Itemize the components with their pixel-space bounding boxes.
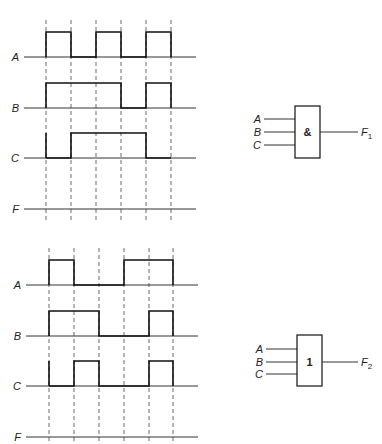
signal-label-f: F bbox=[14, 431, 22, 443]
gate-symbol: 1 bbox=[306, 356, 312, 368]
waveform-a bbox=[49, 260, 173, 285]
and-gate-timing-section: ABCFABC&F1 bbox=[11, 20, 373, 222]
waveform-c bbox=[46, 133, 171, 158]
gate-input-label-b: B bbox=[256, 356, 263, 368]
waveform-c bbox=[49, 361, 173, 386]
waveform-b bbox=[49, 311, 173, 336]
gate-output-label: F1 bbox=[361, 126, 373, 141]
signal-label-b: B bbox=[12, 102, 19, 114]
signal-label-f: F bbox=[12, 203, 20, 215]
signal-label-c: C bbox=[13, 380, 21, 392]
timing-diagram: ABCFABC&F1 ABCFABC1F2 bbox=[0, 0, 382, 444]
gate-input-label-a: A bbox=[255, 343, 263, 355]
gate-input-label-c: C bbox=[255, 368, 263, 380]
waveform-a bbox=[46, 32, 171, 57]
waveform-b bbox=[46, 83, 171, 108]
gate-symbol: & bbox=[304, 126, 312, 138]
signal-label-b: B bbox=[14, 330, 21, 342]
signal-label-a: A bbox=[11, 51, 19, 63]
gate-output-label: F2 bbox=[361, 356, 373, 371]
gate-input-label-c: C bbox=[253, 139, 261, 151]
signal-label-a: A bbox=[13, 279, 21, 291]
gate-input-label-b: B bbox=[254, 126, 261, 138]
signal-label-c: C bbox=[11, 152, 19, 164]
gate-input-label-a: A bbox=[253, 113, 261, 125]
or-gate-timing-section: ABCFABC1F2 bbox=[13, 248, 373, 444]
